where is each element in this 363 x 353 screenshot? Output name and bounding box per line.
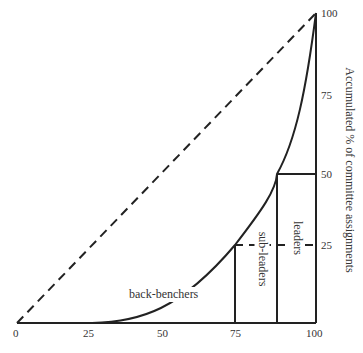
back-benchers-label: back-benchers xyxy=(127,287,200,302)
sub-leaders-label: sub-leaders xyxy=(255,230,270,289)
x-tick-100: 100 xyxy=(306,327,323,339)
x-tick-75: 75 xyxy=(230,327,241,339)
equality-line xyxy=(17,13,316,323)
x-tick-25: 25 xyxy=(83,327,94,339)
x-tick-0: 0 xyxy=(13,327,19,339)
y-tick-50: 50 xyxy=(321,168,332,180)
leaders-label: leaders xyxy=(290,219,305,257)
y-axis-title: Accumulated % of committee assignments xyxy=(342,67,357,272)
y-tick-75: 75 xyxy=(321,89,332,101)
y-tick-25: 25 xyxy=(321,239,332,251)
x-tick-50: 50 xyxy=(157,327,168,339)
y-tick-100: 100 xyxy=(321,7,338,19)
